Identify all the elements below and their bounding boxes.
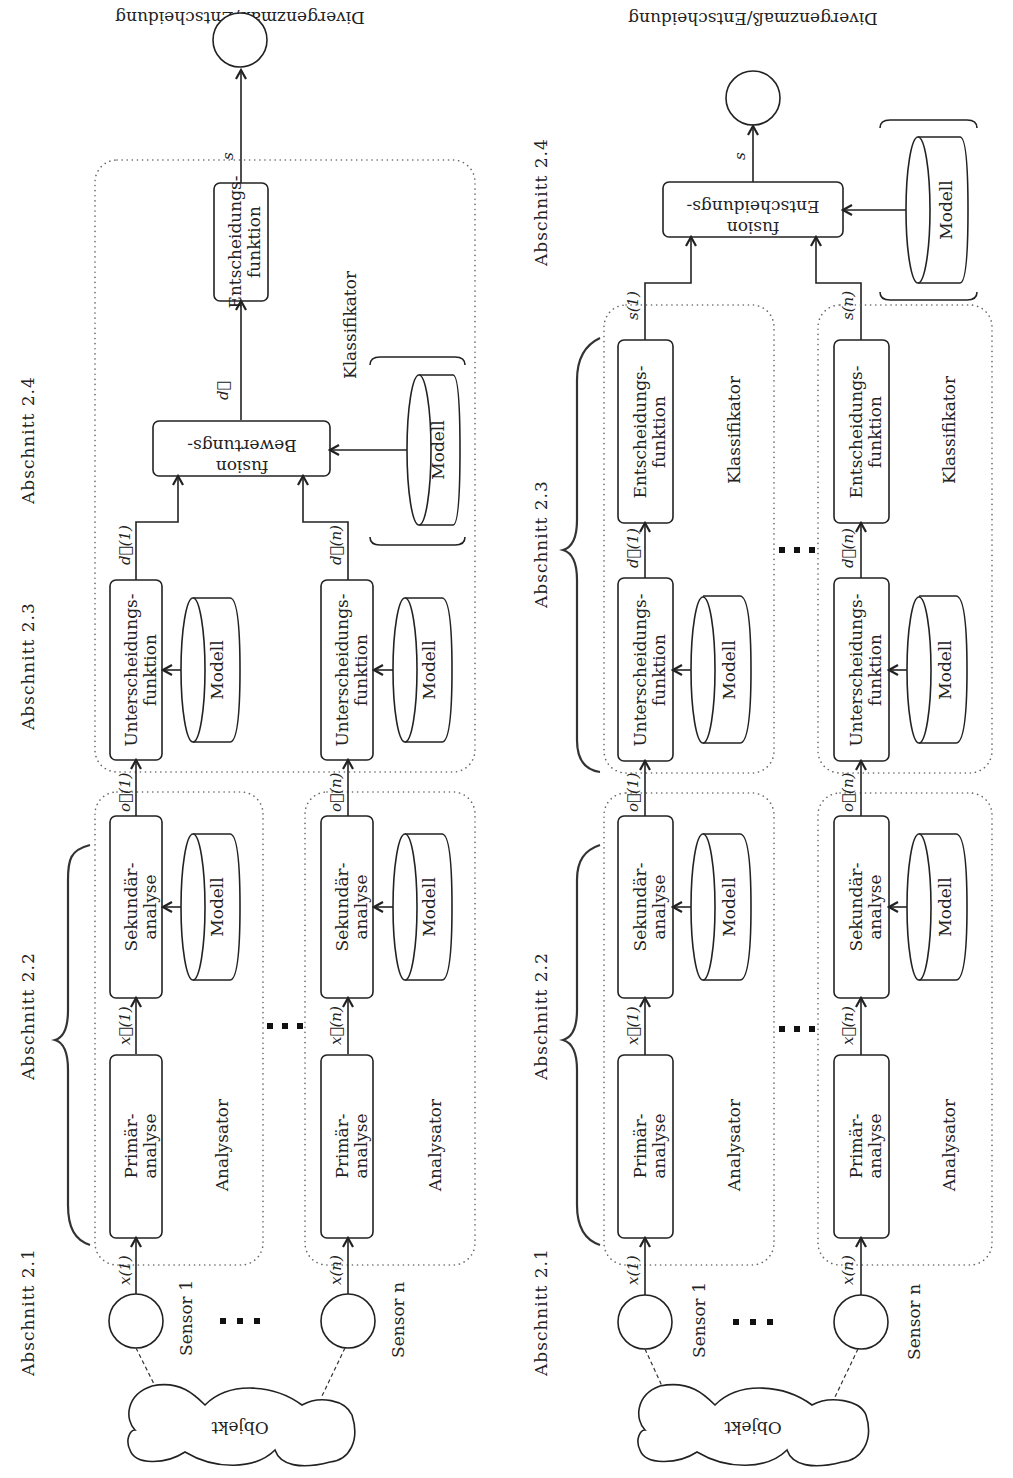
signal-d1: d⃗(1) — [624, 528, 642, 568]
secondary-label-na: Sekundär- — [846, 863, 866, 952]
discrimination-label-nb: funktion — [865, 634, 885, 706]
ellipsis-dots — [220, 1318, 260, 1324]
primary-label-nb: analyse — [351, 1113, 371, 1178]
analyzer-label-n: Analysator — [939, 1098, 959, 1192]
analyzer-label-n: Analysator — [425, 1098, 445, 1192]
signal-x1: x(1) — [624, 1255, 642, 1285]
signal-d: d⃗ — [214, 381, 232, 400]
left-diagram: Divergenzmaß/Entscheidung Abschnitt 2.4 … — [18, 8, 475, 1466]
section-label-2-1: Abschnitt 2.1 — [531, 1248, 551, 1377]
ellipsis-dots — [733, 1319, 773, 1325]
model-label: Modell — [935, 877, 955, 936]
decision-function-label-1: Entscheidungs- — [225, 175, 245, 308]
classifier-label: Klassifikator — [340, 270, 360, 379]
secondary-label-nb: analyse — [351, 874, 371, 939]
decision-function-label-2: funktion — [244, 206, 264, 278]
primary-label-1a: Primär- — [630, 1113, 650, 1178]
model-cylinder: Modell — [907, 834, 967, 980]
primary-label-1b: analyse — [140, 1113, 160, 1178]
score-fusion-label-2: fusion — [216, 457, 269, 477]
discrimination-label-1b: funktion — [649, 634, 669, 706]
signal-on: o⃗(n) — [839, 772, 857, 812]
signal-dn: d⃗(n) — [839, 528, 857, 568]
signal-xvecn: x⃗(n) — [327, 1006, 345, 1045]
secondary-label-1b: analyse — [649, 874, 669, 939]
discrimination-label-na: Unterscheidungs- — [332, 593, 352, 746]
signal-o1: o⃗(1) — [624, 773, 642, 812]
right-diagram: Divergenzmaß/Entscheidung Abschnitt 2.4 … — [531, 9, 992, 1466]
signal-xn: x(n) — [327, 1255, 345, 1285]
object-label: Objekt — [724, 1418, 781, 1438]
model-label: Modell — [719, 877, 739, 936]
discrimination-label-1a: Unterscheidungs- — [630, 593, 650, 746]
section-label-2-3: Abschnitt 2.3 — [18, 602, 38, 731]
analyzer-label-1: Analysator — [212, 1098, 232, 1192]
output-node — [726, 71, 780, 125]
signal-on: o⃗(n) — [327, 772, 345, 812]
section-label-2-1: Abschnitt 2.1 — [18, 1248, 38, 1377]
sensor-label-1: Sensor 1 — [176, 1280, 196, 1356]
signal-xvecn: x⃗(n) — [839, 1006, 857, 1045]
section-label-2-4: Abschnitt 2.4 — [531, 138, 551, 267]
sensor-label-1: Sensor 1 — [689, 1282, 709, 1358]
primary-label-na: Primär- — [332, 1113, 352, 1178]
signal-s: s — [731, 152, 749, 160]
decision-label-1b: funktion — [649, 396, 669, 468]
model-label: Modell — [419, 877, 439, 936]
decision-fusion-label-2: fusion — [727, 218, 780, 238]
decision-fusion-label-1: Entscheidungs- — [686, 197, 819, 217]
sensor-node-n — [321, 1294, 375, 1348]
model-cylinder: Modell — [181, 598, 240, 742]
model-label: Modell — [936, 180, 956, 239]
model-label: Modell — [207, 640, 227, 699]
model-cylinder: Modell — [907, 596, 967, 743]
model-cylinder: Modell — [691, 596, 751, 743]
discrimination-label-1a: Unterscheidungs- — [121, 593, 141, 746]
sensor-label-n: Sensor n — [904, 1284, 924, 1360]
model-cylinder: Modell — [906, 137, 968, 283]
decision-label-1a: Entscheidungs- — [630, 365, 650, 498]
analyzer-label-1: Analysator — [724, 1098, 744, 1192]
diagram-canvas: Divergenzmaß/Entscheidung Abschnitt 2.4 … — [0, 0, 1013, 1478]
sensor-node-1 — [109, 1294, 163, 1348]
section-label-2-2: Abschnitt 2.2 — [531, 952, 551, 1081]
signal-xvec1: x⃗(1) — [624, 1006, 642, 1045]
primary-label-na: Primär- — [846, 1113, 866, 1178]
secondary-label-1a: Sekundär- — [121, 863, 141, 952]
model-label: Modell — [935, 640, 955, 699]
model-label: Modell — [428, 420, 448, 479]
signal-o1: o⃗(1) — [116, 773, 134, 812]
decision-label-nb: funktion — [865, 396, 885, 468]
section-brace — [55, 845, 90, 1245]
signal-xvec1: x⃗(1) — [116, 1006, 134, 1045]
primary-label-1a: Primär- — [121, 1113, 141, 1178]
section-brace — [563, 845, 600, 1245]
model-label: Modell — [419, 640, 439, 699]
signal-s: s — [219, 152, 237, 160]
section-label-2-4: Abschnitt 2.4 — [18, 376, 38, 505]
secondary-label-na: Sekundär- — [332, 863, 352, 952]
classifier-label-1: Klassifikator — [724, 375, 744, 484]
section-label-2-3: Abschnitt 2.3 — [531, 480, 551, 609]
model-cylinder: Modell — [407, 375, 460, 525]
sensor-node-n — [834, 1295, 888, 1349]
classifier-label-n: Klassifikator — [939, 375, 959, 484]
score-fusion-label-1: Bewertungs- — [187, 436, 296, 456]
primary-label-nb: analyse — [865, 1113, 885, 1178]
decision-label-na: Entscheidungs- — [846, 365, 866, 498]
ellipsis-dots — [779, 547, 815, 553]
model-cylinder: Modell — [691, 834, 751, 980]
signal-dn: d⃗(n) — [327, 525, 345, 565]
section-label-2-2: Abschnitt 2.2 — [18, 952, 38, 1081]
signal-xn: x(n) — [839, 1255, 857, 1285]
discrimination-label-nb: funktion — [351, 634, 371, 706]
section-brace — [563, 338, 600, 772]
ellipsis-dots — [267, 1023, 303, 1029]
model-label: Modell — [719, 640, 739, 699]
secondary-label-1b: analyse — [140, 874, 160, 939]
secondary-label-nb: analyse — [865, 874, 885, 939]
sensor-label-n: Sensor n — [388, 1282, 408, 1358]
model-cylinder: Modell — [181, 834, 240, 980]
model-cylinder: Modell — [393, 834, 452, 980]
ellipsis-dots — [779, 1026, 815, 1032]
